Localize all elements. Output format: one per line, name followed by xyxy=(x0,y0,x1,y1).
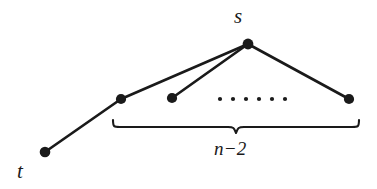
second-leaf-node xyxy=(167,93,177,103)
ellipsis-dot xyxy=(283,97,287,101)
figure-canvas: s t n−2 xyxy=(0,0,377,189)
ellipsis-dot xyxy=(257,97,261,101)
edge-group xyxy=(45,44,349,152)
graph-drawing xyxy=(0,0,377,189)
node-group xyxy=(40,39,354,158)
right-leaf-node xyxy=(344,94,354,104)
ellipsis-dot xyxy=(231,97,235,101)
ellipsis-dot xyxy=(244,97,248,101)
ellipsis-dots xyxy=(218,97,287,101)
ellipsis-dot xyxy=(270,97,274,101)
source-label-s: s xyxy=(234,6,242,27)
underbrace xyxy=(113,120,359,133)
ellipsis-dot xyxy=(218,97,222,101)
left-leaf-node xyxy=(116,94,126,104)
edge-v1-t xyxy=(45,99,121,152)
edge-s-vn xyxy=(248,44,349,99)
sink-label-t: t xyxy=(17,161,23,182)
sink-node xyxy=(40,147,51,158)
apex-node xyxy=(243,39,254,50)
brace-label-n-minus-2: n−2 xyxy=(214,139,246,158)
